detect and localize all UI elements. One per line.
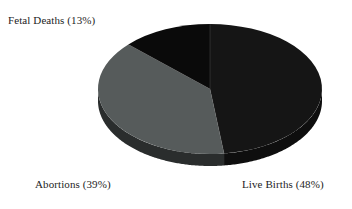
slice-label-live-births: Live Births (48%): [242, 178, 324, 191]
pie-chart-figure: Fetal Deaths (13%) Abortions (39%) Live …: [0, 0, 352, 209]
slice-label-abortions: Abortions (39%): [35, 178, 111, 191]
slice-label-fetal-deaths: Fetal Deaths (13%): [8, 14, 95, 27]
